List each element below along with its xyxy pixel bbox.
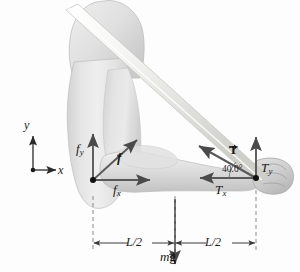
T-y-label: Ty bbox=[261, 161, 272, 176]
diagram-canvas bbox=[0, 0, 300, 272]
f-y-subscript: y bbox=[80, 147, 84, 157]
hand-pivot-dot bbox=[253, 175, 259, 181]
physics-free-body-diagram: y x fy fx f T Ty Tx 40.0° L/2 L/2 m bbox=[0, 0, 300, 272]
f-vector-label: f bbox=[117, 151, 121, 164]
weight-mass-symbol: m bbox=[160, 249, 169, 264]
f-x-subscript: x bbox=[117, 188, 121, 198]
coordinate-axes bbox=[31, 136, 56, 172]
x-axis-label: x bbox=[58, 164, 63, 176]
T-vector-symbol: T bbox=[229, 142, 238, 157]
weight-gravity-symbol: g bbox=[169, 249, 176, 264]
T-x-label: Tx bbox=[215, 183, 226, 198]
T-x-subscript: x bbox=[222, 188, 226, 198]
y-axis-label: y bbox=[24, 119, 29, 131]
dimension-annotations bbox=[93, 190, 256, 250]
elbow-pivot-dot bbox=[90, 177, 96, 183]
angle-label: 40.0° bbox=[222, 165, 242, 175]
weight-label: m g bbox=[160, 250, 176, 263]
f-y-label: fy bbox=[76, 142, 84, 157]
f-x-label: fx bbox=[113, 183, 121, 198]
T-y-subscript: y bbox=[268, 166, 272, 176]
axes-origin-dot bbox=[31, 168, 36, 173]
f-vector-symbol: f bbox=[117, 150, 121, 165]
dim-left-label: L/2 bbox=[126, 236, 142, 248]
dim-right-label: L/2 bbox=[205, 236, 221, 248]
T-vector-label: T bbox=[229, 143, 238, 156]
